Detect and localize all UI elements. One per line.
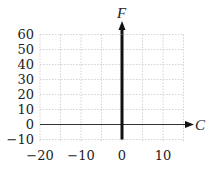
y-tick-labels: −100102030405060 bbox=[7, 27, 34, 147]
y-tick-label: −10 bbox=[7, 132, 34, 147]
y-tick-label: 30 bbox=[17, 72, 34, 87]
x-tick-label: −10 bbox=[67, 148, 94, 163]
y-tick-label: 50 bbox=[17, 42, 34, 57]
chart: −100102030405060 −20−10010 C F bbox=[0, 0, 215, 173]
y-tick-label: 0 bbox=[26, 117, 34, 132]
x-tick-label: 0 bbox=[118, 148, 126, 163]
y-tick-label: 60 bbox=[17, 27, 34, 42]
x-tick-labels: −20−10010 bbox=[26, 148, 171, 163]
y-axis-label: F bbox=[116, 5, 127, 21]
y-tick-label: 40 bbox=[17, 57, 34, 72]
x-tick-label: −20 bbox=[26, 148, 53, 163]
grid-lines bbox=[40, 35, 184, 142]
y-tick-label: 20 bbox=[17, 87, 34, 102]
y-axis-arrow-icon bbox=[119, 21, 126, 30]
x-tick-label: 10 bbox=[155, 148, 172, 163]
y-tick-label: 10 bbox=[17, 102, 34, 117]
x-axis-label: C bbox=[195, 117, 206, 133]
x-axis-arrow-icon bbox=[185, 121, 194, 128]
